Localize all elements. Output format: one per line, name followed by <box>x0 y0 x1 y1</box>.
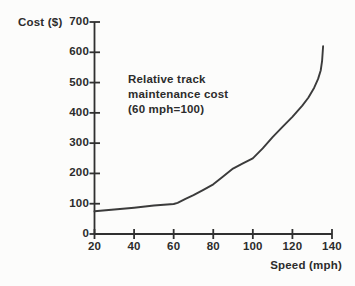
cost-curve <box>95 46 324 211</box>
chart-figure: Cost ($) Speed (mph) Relative trackmaint… <box>0 0 355 286</box>
plot-area <box>0 0 355 286</box>
